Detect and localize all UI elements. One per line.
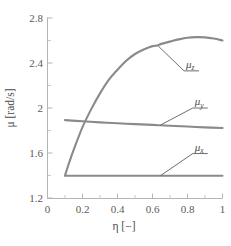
x-tick-label: 0	[45, 203, 51, 215]
x-axis-tick-labels: 0 0.2 0.4 0.6 0.8 1	[45, 203, 226, 215]
chart-figure: 2.8 2.4 2 1.6 1.2 0 0.2 0.4 0.6	[0, 0, 231, 246]
x-tick-label: 0.2	[76, 203, 90, 215]
y-axis-tick-labels: 2.8 2.4 2 1.6 1.2	[29, 12, 43, 204]
x-axis-ticks	[48, 194, 223, 199]
leader-line-mu-y	[160, 108, 207, 125]
series-label-mu-y: μy	[194, 95, 205, 110]
y-axis-ticks	[48, 18, 53, 198]
series-label-mu-x: μx	[194, 141, 205, 156]
line-chart: 2.8 2.4 2 1.6 1.2 0 0.2 0.4 0.6	[0, 0, 231, 246]
x-tick-label: 1	[220, 203, 226, 215]
leader-line-mu-x	[160, 154, 207, 176]
annotation-labels: μz μy μx	[185, 58, 204, 155]
annotation-leaders	[158, 46, 208, 176]
x-tick-label: 0.6	[146, 203, 160, 215]
series-label-mu-z: μz	[185, 58, 195, 73]
y-tick-label: 1.6	[29, 147, 43, 159]
y-tick-label: 2	[38, 102, 44, 114]
y-tick-label: 1.2	[29, 192, 43, 204]
series-line-mu-y	[65, 120, 223, 128]
x-tick-label: 0.8	[181, 203, 195, 215]
y-tick-label: 2.4	[29, 57, 43, 69]
y-tick-label: 2.8	[29, 12, 43, 24]
y-axis-title: μ [rad/s]	[4, 88, 17, 127]
x-axis-title: η [−]	[112, 220, 135, 233]
x-tick-label: 0.4	[111, 203, 125, 215]
